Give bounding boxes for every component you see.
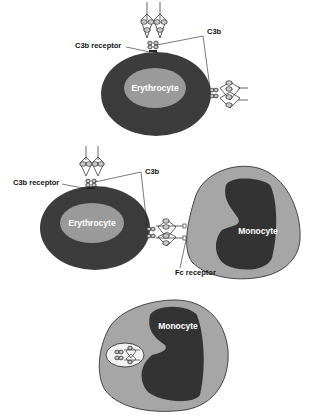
c3b-receptor-label-2: C3b receptor: [13, 178, 59, 187]
c3b-label-2: C3b: [145, 167, 160, 176]
erythrocyte-1-label: Erythrocyte: [131, 83, 179, 93]
c3b-receptor-label-1: C3b receptor: [75, 41, 121, 50]
panel-1: Erythrocyte C3b receptor: [75, 2, 248, 136]
panel-3: Monocyte: [99, 300, 228, 411]
immune-complex-bridge: [147, 219, 186, 246]
erythrocyte-2-label: Erythrocyte: [68, 218, 116, 228]
phagosome: [106, 343, 144, 367]
immune-complex-top-2: [80, 146, 104, 189]
fc-receptor-label: Fc receptor: [175, 268, 216, 277]
immune-complex-top-1: [141, 2, 167, 52]
panel-2: Erythrocyte C3b receptor C3b: [13, 146, 300, 279]
immune-complex-diagram: Erythrocyte C3b receptor: [0, 0, 315, 418]
monocyte-2-label: Monocyte: [238, 226, 278, 236]
c3b-label-1: C3b: [207, 27, 222, 36]
monocyte-3-label: Monocyte: [158, 321, 198, 331]
immune-complex-right-1: [210, 81, 248, 108]
